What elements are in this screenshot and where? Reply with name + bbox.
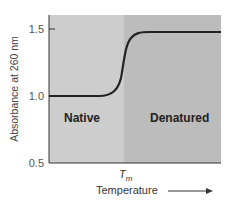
y-tick-1-5: 1.5 <box>29 23 44 35</box>
arrow-head-icon <box>206 188 213 194</box>
y-tick-0-5: 0.5 <box>29 157 44 169</box>
denatured-label: Denatured <box>150 111 209 125</box>
x-axis-label: Temperature <box>96 184 158 196</box>
native-region <box>49 15 124 163</box>
tm-label: Tm <box>119 168 133 183</box>
melting-curve-chart: 1.5 1.0 0.5 Absorbance at 260 nm Native … <box>0 0 227 201</box>
native-label: Native <box>64 111 100 125</box>
denatured-region <box>124 15 221 163</box>
y-axis-label: Absorbance at 260 nm <box>8 36 20 142</box>
y-tick-1-0: 1.0 <box>29 90 44 102</box>
